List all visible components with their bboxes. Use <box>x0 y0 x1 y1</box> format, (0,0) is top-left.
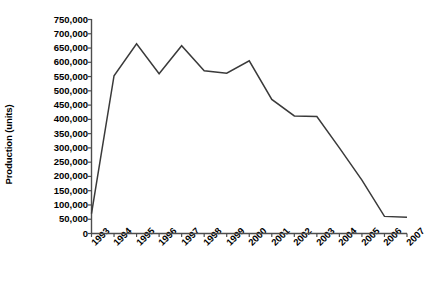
data-series-line <box>92 44 408 217</box>
line-chart: Production (units) 050,000100,000150,000… <box>0 0 426 289</box>
axes-group <box>88 19 407 237</box>
plot-area <box>0 0 426 289</box>
